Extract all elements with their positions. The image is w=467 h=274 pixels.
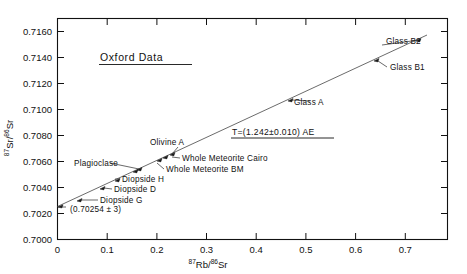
- x-tick-label: 0.2: [150, 244, 163, 255]
- point-label-olivine-a: Olivine A: [150, 138, 184, 147]
- y-tick-label: 0.7100: [23, 104, 52, 115]
- y-axis-tail-sr: Sr: [4, 120, 15, 130]
- y-tick-label: 0.7040: [23, 182, 52, 193]
- x-axis-ticks: [58, 233, 406, 240]
- point-label-glass-a: Glass A: [294, 98, 324, 107]
- y-axis-title: 87Sr/86Sr: [3, 120, 15, 156]
- y-axis-ticks: [58, 32, 65, 240]
- x-tick-label: 0.1: [101, 244, 114, 255]
- x-axis-base-rb: Rb/: [196, 259, 211, 270]
- x-axis-title: 87Rb/86Sr: [189, 258, 228, 270]
- right-axis-ticks: [441, 32, 448, 214]
- intercept-annotation: (0.70254 ± 3): [70, 205, 121, 214]
- x-tick-label: 0.7: [399, 244, 412, 255]
- x-tick-label: 0.4: [250, 244, 263, 255]
- chart-canvas: 0.7160 0.7140 0.7120 0.7100 0.7080 0.706…: [0, 0, 467, 274]
- y-tick-label: 0.7160: [23, 26, 52, 37]
- data-points: [58, 39, 421, 209]
- point-label-glass-b1: Glass B1: [390, 63, 425, 72]
- point-label-diopside-d: Diopside D: [114, 185, 156, 194]
- y-tick-label: 0.7060: [23, 156, 52, 167]
- x-axis-tail-sr: Sr: [218, 259, 228, 270]
- x-axis-tick-labels: 0 0.1 0.2 0.3 0.4 0.5 0.6 0.7: [55, 244, 412, 255]
- point-label-plagioclase: Plagioclase: [74, 159, 118, 168]
- y-tick-label: 0.7000: [23, 234, 52, 245]
- x-tick-label: 0.3: [200, 244, 213, 255]
- svg-text:87Sr/86Sr: 87Sr/86Sr: [3, 120, 15, 156]
- point-label-whole-meteorite-bm: Whole Meteorite BM: [166, 165, 244, 174]
- age-annotation: T=(1.242±0.010) AE: [232, 127, 315, 137]
- label-leader-lines: [58, 40, 419, 207]
- x-tick-label: 0.5: [299, 244, 312, 255]
- top-axis-ticks: [107, 19, 405, 26]
- y-tick-label: 0.7080: [23, 130, 52, 141]
- y-axis-base-sr: Sr/: [4, 136, 15, 149]
- y-tick-label: 0.7140: [23, 52, 52, 63]
- point-label-glass-b2: Glass B2: [386, 37, 421, 46]
- y-tick-label: 0.7020: [23, 208, 52, 219]
- y-tick-label: 0.7120: [23, 78, 52, 89]
- point-label-diopside-g: Diopside G: [100, 196, 143, 205]
- x-tick-label: 0.6: [349, 244, 362, 255]
- point-label-diopside-h: Diopside H: [122, 175, 164, 184]
- x-tick-label: 0: [55, 244, 60, 255]
- svg-text:87Rb/86Sr: 87Rb/86Sr: [189, 258, 228, 270]
- point-label-whole-meteorite-cairo: Whole Meteorite Cairo: [182, 154, 268, 163]
- chart-title: Oxford Data: [100, 51, 163, 63]
- isochron-figure: 0.7160 0.7140 0.7120 0.7100 0.7080 0.706…: [0, 0, 467, 274]
- y-axis-tick-labels: 0.7160 0.7140 0.7120 0.7100 0.7080 0.706…: [23, 26, 52, 245]
